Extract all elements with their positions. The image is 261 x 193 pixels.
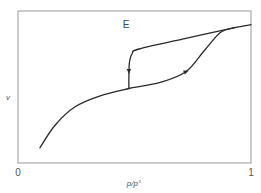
y-axis-label: v (6, 93, 11, 102)
hysteresis-type-label: E (123, 19, 130, 30)
desorption-direction-arrow-icon (127, 69, 131, 74)
x-tick-label-1: 1 (248, 167, 254, 178)
series-layer (40, 25, 251, 148)
x-axis-label: p/p° (126, 179, 142, 188)
x-tick-label-0: 0 (15, 167, 21, 178)
adsorption-branch-line (40, 25, 251, 148)
isotherm-chart: E v 0 1 p/p° (0, 0, 261, 193)
desorption-branch-line (129, 28, 235, 89)
